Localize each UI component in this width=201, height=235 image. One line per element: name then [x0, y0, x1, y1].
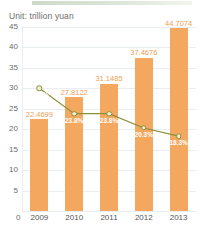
x-axis-tick-label: 2013: [170, 214, 188, 222]
growth-rate-label: 20.3%: [135, 132, 153, 139]
y-axis-tick-label: 35: [9, 64, 18, 72]
growth-rate-label: 23.8%: [65, 118, 83, 125]
x-axis-tick-label: 2012: [135, 214, 153, 222]
bar-value-label: 44.7074: [165, 19, 192, 27]
y-axis-tick-label: 15: [9, 146, 18, 154]
chart-plot-area: 51015202530354045 22.469927.812231.14853…: [22, 27, 196, 211]
unit-label: Unit: trillion yuan: [9, 11, 74, 21]
y-axis-tick-label: 40: [9, 43, 18, 51]
data-point-marker: [176, 133, 182, 139]
y-axis-tick-label: 10: [9, 166, 18, 174]
growth-rate-label: 18.3%: [169, 140, 187, 147]
y-axis-tick-label: 25: [9, 105, 18, 113]
x-axis-tick-label: 2009: [30, 214, 48, 222]
y-axis-tick-label: 20: [9, 125, 18, 133]
x-axis-tick-label: 2010: [65, 214, 83, 222]
data-point-marker: [37, 86, 43, 92]
growth-rate-label: 30.0%: [30, 92, 48, 99]
data-point-marker: [71, 111, 77, 117]
x-axis-tick-label: 2011: [100, 214, 117, 222]
data-point-marker: [106, 111, 112, 117]
gridline: [22, 211, 196, 212]
data-point-marker: [141, 125, 147, 131]
y-axis-tick-label: 45: [9, 23, 18, 31]
top-accent-bar: [32, 1, 192, 5]
y-axis-tick-label: 5: [14, 187, 18, 195]
x-axis-zero-label: 0: [16, 214, 20, 222]
growth-rate-label: 23.8%: [100, 118, 118, 125]
y-axis-tick-label: 30: [9, 84, 18, 92]
